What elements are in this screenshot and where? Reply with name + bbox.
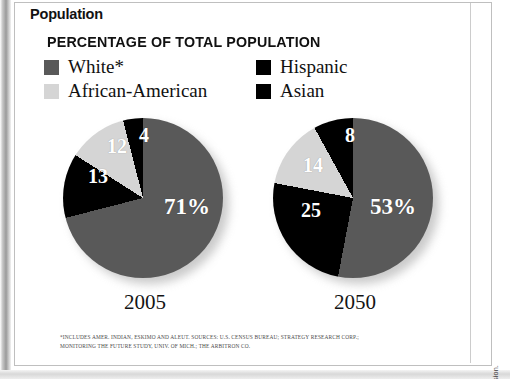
legend-item-asian: Asian	[256, 81, 324, 101]
pie-2005-year-label: 2005	[55, 290, 235, 315]
pie-2050-slice-label-asian: 8	[345, 124, 355, 147]
legend-swatch-white-icon	[44, 60, 59, 75]
pie-chart-2005: 71% 13 12 4 2005	[55, 112, 235, 312]
pie-2005-slice-label-african-american: 12	[107, 135, 127, 158]
footnote-sources: *INCLUDES AMER. INDIAN, ESKIMO AND ALEUT…	[60, 333, 390, 350]
section-title: Population	[30, 6, 103, 22]
pie-2005-slice-label-hispanic: 13	[88, 165, 108, 188]
legend-item-african-american: African-American	[44, 81, 256, 101]
pie-2050-year-label: 2050	[265, 290, 445, 315]
legend-label-african-american: African-American	[68, 81, 207, 101]
page-bottom-edge-shadow	[0, 370, 510, 379]
pie-2005-slice-label-asian: 4	[139, 124, 149, 147]
pie-chart-2050: 53% 25 14 8 2050	[265, 112, 445, 312]
pie-2005-slice-label-white: 71%	[164, 194, 210, 220]
legend-item-hispanic: Hispanic	[256, 57, 348, 77]
legend: White* Hispanic African-American Asian	[44, 57, 374, 105]
legend-label-asian: Asian	[280, 81, 324, 101]
chart-title: PERCENTAGE OF TOTAL POPULATION	[47, 33, 321, 51]
legend-label-hispanic: Hispanic	[280, 57, 348, 77]
legend-swatch-hispanic-icon	[256, 60, 271, 75]
legend-item-white: White*	[44, 57, 256, 77]
pie-2050-slice-label-african-american: 14	[303, 154, 323, 177]
legend-swatch-asian-icon	[256, 84, 271, 99]
legend-label-white: White*	[68, 57, 124, 77]
legend-row: White* Hispanic	[44, 57, 374, 81]
pie-2050-slice-label-hispanic: 25	[301, 199, 321, 222]
pie-2050-slice-label-white: 53%	[370, 194, 416, 220]
newsweek-population-chart-page: Population PERCENTAGE OF TOTAL POPULATIO…	[0, 0, 510, 379]
legend-swatch-african-american-icon	[44, 84, 59, 99]
legend-row: African-American Asian	[44, 81, 374, 105]
pie-charts-area: 71% 13 12 4 2005 53% 25 14 8 2050	[0, 112, 510, 312]
copyright-credit: © 1999 Newsweek, Inc. All rights reserve…	[491, 365, 500, 379]
